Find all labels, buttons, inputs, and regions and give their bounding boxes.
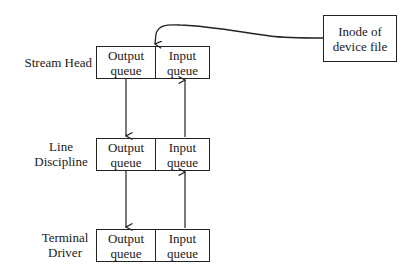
output-queue: Output queue [97, 47, 156, 78]
queue-label: queue [167, 155, 198, 170]
layer-label-line: Terminal [36, 230, 94, 245]
queue-label: queue [110, 246, 141, 261]
queue-label: queue [167, 63, 198, 78]
inode-link-arrow [155, 25, 323, 44]
output-queue: Output queue [97, 139, 156, 170]
queue-label: Input [169, 231, 196, 246]
layer-label-line-discipline: Line Discipline [30, 139, 92, 169]
queue-label: queue [110, 63, 141, 78]
queue-pair-line-discipline: Output queue Input queue [96, 138, 210, 171]
layer-label-line: Stream Head [24, 55, 92, 70]
queue-label: Output [108, 140, 144, 155]
queue-label: Output [108, 48, 144, 63]
layer-label-stream-head: Stream Head [0, 55, 92, 70]
queue-label: queue [167, 246, 198, 261]
input-queue: Input queue [156, 139, 209, 170]
output-queue: Output queue [97, 230, 156, 261]
queue-label: Input [169, 140, 196, 155]
queue-pair-terminal-driver: Output queue Input queue [96, 229, 210, 262]
inode-box: Inode of device file [323, 15, 397, 62]
inode-label: device file [333, 39, 388, 54]
queue-label: queue [110, 155, 141, 170]
input-queue: Input queue [156, 47, 209, 78]
queue-label: Output [108, 231, 144, 246]
queue-label: Input [169, 48, 196, 63]
layer-label-line: Driver [36, 245, 94, 260]
layer-label-line: Discipline [30, 154, 92, 169]
input-queue: Input queue [156, 230, 209, 261]
inode-label: Inode of [338, 24, 382, 39]
queue-pair-stream-head: Output queue Input queue [96, 46, 210, 79]
layer-label-terminal-driver: Terminal Driver [36, 230, 94, 260]
layer-label-line: Line [30, 139, 92, 154]
